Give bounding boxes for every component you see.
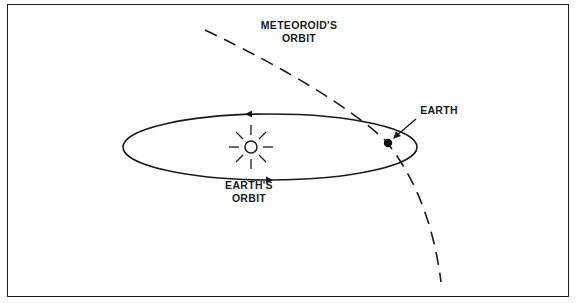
earth-pointer-arrow	[393, 119, 416, 139]
earth-label: EARTH	[414, 104, 464, 117]
earths-orbit-label-line2: ORBIT	[214, 192, 284, 205]
meteoroid-orbit-label: METEOROID'S ORBIT	[254, 19, 344, 45]
sun-icon	[229, 125, 273, 169]
meteoroid-orbit-label-line1: METEOROID'S	[254, 19, 344, 32]
meteoroid-orbit-path	[205, 30, 441, 282]
orbit-diagram	[0, 0, 577, 303]
meteoroid-orbit-label-line2: ORBIT	[254, 32, 344, 45]
orbit-direction-arrow-top	[245, 111, 252, 118]
earth-label-text: EARTH	[414, 104, 464, 117]
earths-orbit-label-line1: EARTH'S	[214, 179, 284, 192]
earth-dot	[384, 139, 392, 147]
earths-orbit-label: EARTH'S ORBIT	[214, 179, 284, 205]
